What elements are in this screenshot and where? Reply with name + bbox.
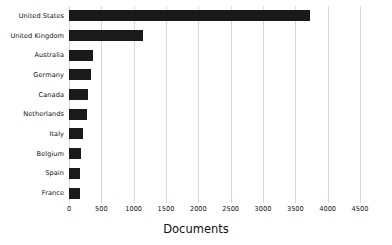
x-axis-tick-label: 0 [67, 205, 71, 213]
bar-italy[interactable] [69, 128, 83, 139]
bar-united-kingdom[interactable] [69, 30, 143, 41]
bar-row[interactable] [69, 144, 360, 164]
y-axis-tick-united-kingdom: United Kingdom [0, 26, 64, 46]
x-axis-tick-label: 4000 [319, 205, 336, 213]
bar-row[interactable] [69, 26, 360, 46]
x-axis-title: Documents [0, 222, 392, 236]
x-axis-tick-labels: 050010001500200025003000350040004500 [69, 205, 360, 219]
x-axis-tick-label: 2500 [222, 205, 239, 213]
y-axis-tick-germany: Germany [0, 65, 64, 85]
y-axis-tick-canada: Canada [0, 85, 64, 105]
bar-row[interactable] [69, 85, 360, 105]
x-axis-tick-label: 4500 [352, 205, 369, 213]
y-axis-tick-spain: Spain [0, 164, 64, 184]
bar-row[interactable] [69, 164, 360, 184]
bar-france[interactable] [69, 188, 80, 199]
bar-row[interactable] [69, 124, 360, 144]
x-axis-tick-label: 3000 [255, 205, 272, 213]
bar-united-states[interactable] [69, 10, 310, 21]
bar-row[interactable] [69, 65, 360, 85]
bar-germany[interactable] [69, 69, 91, 80]
gridline-4500 [360, 6, 361, 203]
bar-row[interactable] [69, 104, 360, 124]
x-axis-tick-label: 3500 [287, 205, 304, 213]
y-axis-tick-label: Italy [49, 130, 64, 138]
x-axis-tick-label: 2000 [190, 205, 207, 213]
y-axis-tick-label: Netherlands [23, 110, 64, 118]
y-axis-tick-label: Spain [45, 169, 64, 177]
y-axis-tick-label: Belgium [37, 150, 64, 158]
y-axis-tick-france: France [0, 183, 64, 203]
y-axis-category-labels: United States United Kingdom Australia G… [0, 6, 64, 203]
y-axis-tick-label: Germany [33, 71, 64, 79]
bar-spain[interactable] [69, 168, 80, 179]
y-axis-tick-united-states: United States [0, 6, 64, 26]
documents-by-country-bar-chart: United States United Kingdom Australia G… [0, 0, 392, 245]
y-axis-tick-australia: Australia [0, 45, 64, 65]
plot-area [69, 6, 360, 203]
bars-layer [69, 6, 360, 203]
bar-row[interactable] [69, 183, 360, 203]
bar-netherlands[interactable] [69, 109, 87, 120]
bar-australia[interactable] [69, 50, 93, 61]
y-axis-tick-label: France [42, 189, 64, 197]
x-axis-tick-label: 500 [95, 205, 108, 213]
y-axis-tick-label: Canada [39, 91, 64, 99]
y-axis-tick-label: Australia [34, 51, 64, 59]
x-axis-tick-label: 1000 [125, 205, 142, 213]
y-axis-tick-label: United Kingdom [10, 32, 64, 40]
x-axis-tick-label: 1500 [158, 205, 175, 213]
bar-canada[interactable] [69, 89, 88, 100]
y-axis-tick-netherlands: Netherlands [0, 104, 64, 124]
bar-row[interactable] [69, 45, 360, 65]
bar-row[interactable] [69, 6, 360, 26]
y-axis-tick-belgium: Belgium [0, 144, 64, 164]
y-axis-tick-label: United States [19, 12, 64, 20]
bar-belgium[interactable] [69, 148, 81, 159]
y-axis-tick-italy: Italy [0, 124, 64, 144]
